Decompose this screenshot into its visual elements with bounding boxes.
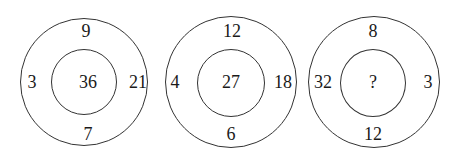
circle-3-left-number: 32 [314, 73, 332, 91]
circle-3-right-number: 3 [424, 73, 433, 91]
circle-1-bottom-number: 7 [84, 125, 93, 143]
circle-2-right-number: 18 [274, 73, 292, 91]
circle-1-right-number: 21 [129, 73, 147, 91]
circle-1-center-number: 36 [79, 73, 97, 91]
number-circle-puzzle: 9 3 36 21 7 12 4 27 18 6 8 32 ? 3 12 [0, 0, 459, 156]
circle-2-bottom-number: 6 [227, 125, 236, 143]
circle-3-top-number: 8 [369, 22, 378, 40]
circle-1-left-number: 3 [28, 73, 37, 91]
circle-2-top-number: 12 [223, 22, 241, 40]
circle-3-bottom-number: 12 [364, 125, 382, 143]
circle-1-top-number: 9 [82, 22, 91, 40]
circle-2-left-number: 4 [171, 73, 180, 91]
circle-2-center-number: 27 [222, 73, 240, 91]
circle-3-center-unknown: ? [369, 73, 377, 91]
